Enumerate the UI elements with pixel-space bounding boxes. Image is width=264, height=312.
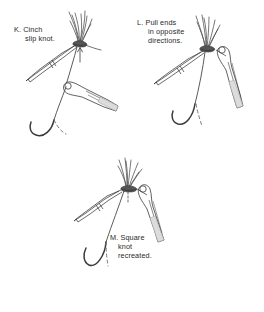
- panel-m-caption-line2: knot: [118, 242, 132, 251]
- panel-k-caption-line1: K. Cinch: [14, 25, 42, 34]
- panel-l-caption-line2: in opposite: [148, 27, 184, 36]
- panel-k-caption-line2: slip knot.: [25, 34, 55, 43]
- illustration-canvas: K. Cinch slip knot.: [0, 0, 264, 312]
- figure-root: K. Cinch slip knot.: [0, 0, 264, 312]
- panel-m-caption-line3: recreated.: [118, 251, 152, 260]
- panel-l-caption-line1: L. Pull ends: [137, 18, 177, 27]
- panel-l-caption-line3: directions.: [148, 36, 182, 45]
- panel-m-caption-line1: M. Square: [110, 233, 145, 242]
